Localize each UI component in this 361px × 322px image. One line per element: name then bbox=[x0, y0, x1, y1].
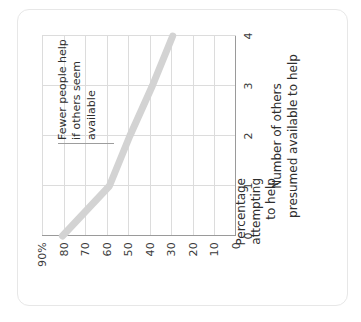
y-tick-label-50: 50 bbox=[121, 242, 134, 256]
chart-annotation: Fewer people help if others seem availab… bbox=[56, 36, 99, 140]
plot-area: 90% 80 70 60 50 40 30 20 10 0 0 1 2 3 4 bbox=[42, 36, 236, 236]
chart-annotation-line-2: if others seem bbox=[70, 36, 84, 140]
rotated-chart-stage: Percentage attempting to help Number of … bbox=[28, 18, 338, 298]
y-tick-label-60: 60 bbox=[100, 242, 113, 256]
chart-annotation-line-3: available bbox=[84, 36, 98, 140]
y-tick-label-80: 80 bbox=[57, 242, 70, 256]
chart-annotation-line-1: Fewer people help bbox=[56, 36, 70, 140]
y-tick-label-0: 0 bbox=[229, 242, 242, 249]
y-tick-label-70: 70 bbox=[78, 242, 91, 256]
y-tick-label-10: 10 bbox=[207, 242, 220, 256]
y-tick-label-30: 30 bbox=[164, 242, 177, 256]
x-tick-label-3: 3 bbox=[242, 82, 255, 89]
y-tick-label-20: 20 bbox=[186, 242, 199, 256]
x-axis-title-line-1: Number of others bbox=[270, 36, 286, 236]
y-tick-label-40: 40 bbox=[143, 242, 156, 256]
x-tick-label-4: 4 bbox=[242, 32, 255, 39]
x-axis-title: Number of others presumed available to h… bbox=[270, 36, 301, 236]
y-tick-label-90: 90% bbox=[35, 242, 48, 267]
line-chart: Percentage attempting to help Number of … bbox=[28, 18, 338, 298]
figure-card: Percentage attempting to help Number of … bbox=[17, 9, 348, 306]
page-canvas: Percentage attempting to help Number of … bbox=[0, 0, 361, 322]
x-tick-label-0: 0 bbox=[242, 232, 255, 239]
x-axis-title-line-2: presumed available to help bbox=[285, 36, 301, 236]
x-tick-label-1: 1 bbox=[242, 182, 255, 189]
x-tick-label-2: 2 bbox=[242, 132, 255, 139]
annotation-leader-line bbox=[58, 143, 114, 144]
